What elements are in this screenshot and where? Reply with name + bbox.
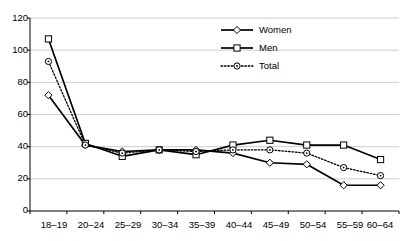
legend-label-total: Total <box>259 61 279 71</box>
y-tick-label-40: 40 <box>2 141 28 151</box>
y-tick-label-60: 60 <box>2 109 28 119</box>
y-tick-label-80: 80 <box>2 77 28 87</box>
chart-canvas <box>0 0 404 241</box>
legend-label-men: Men <box>259 43 277 53</box>
legend-label-women: Women <box>259 25 292 35</box>
y-tick-label-100: 100 <box>2 45 28 55</box>
line-chart: 120 100 80 60 40 20 0 18–19 20–24 25–29 … <box>0 0 404 241</box>
y-tick-label-120: 120 <box>2 13 28 23</box>
y-tick-label-0: 0 <box>2 205 28 215</box>
x-tick-label-9: 60–64 <box>358 220 402 230</box>
y-tick-label-20: 20 <box>2 173 28 183</box>
